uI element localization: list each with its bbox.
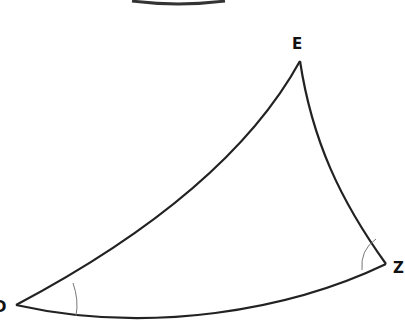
- vertex-label-d: D: [0, 298, 6, 316]
- vertex-label-e: E: [292, 35, 302, 53]
- edge-z-d: [16, 264, 386, 318]
- curved-triangle-diagram: E Z D: [0, 0, 405, 324]
- vertex-label-z: Z: [393, 259, 404, 277]
- edge-e-z: [300, 61, 386, 264]
- angle-mark-z: [362, 239, 376, 270]
- angle-mark-d: [73, 283, 77, 316]
- top-ellipse-arc: [132, 1, 225, 4]
- edge-d-e: [16, 61, 300, 305]
